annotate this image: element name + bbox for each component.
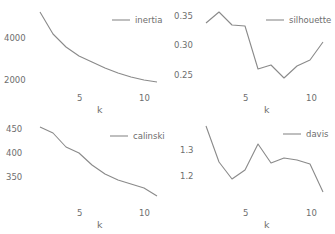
y-tick-label: 0.35 [174,11,193,21]
legend-label: silhouette [289,15,331,25]
x-axis-label: k [97,104,103,115]
panel-inertia: 4000 2000 5 10 k inertia [4,12,162,115]
y-tick-label: 1.3 [180,145,194,155]
y-tick-label: 1.2 [180,171,194,181]
y-tick-label: 400 [6,148,22,158]
x-axis-label: k [264,219,270,230]
y-tick-label: 0.25 [174,70,193,80]
x-tick-label: 10 [139,208,150,218]
panel-davis: 1.3 1.2 5 10 k davis [180,126,329,230]
panel-calinski: 450 400 350 5 10 k calinski [6,124,165,230]
panel-silhouette: 0.35 0.30 0.25 5 10 k silhouette [174,11,331,115]
y-tick-label: 0.30 [174,40,193,50]
x-axis-label: k [97,219,103,230]
y-tick-label: 450 [6,124,22,134]
chart-grid: 4000 2000 5 10 k inertia 0.35 0.30 0.25 … [0,0,335,234]
x-axis-label: k [264,104,270,115]
y-tick-label: 2000 [4,75,26,85]
x-tick-label: 5 [243,208,248,218]
x-tick-label: 10 [139,93,150,103]
y-tick-label: 350 [6,172,22,182]
x-tick-label: 10 [306,93,317,103]
x-tick-label: 5 [77,93,82,103]
x-tick-label: 5 [243,93,248,103]
x-tick-label: 5 [77,208,82,218]
legend-label: inertia [135,15,162,25]
y-tick-label: 4000 [4,33,26,43]
legend-label: davis [306,129,329,139]
charts-svg: 4000 2000 5 10 k inertia 0.35 0.30 0.25 … [0,0,335,234]
x-tick-label: 10 [306,208,317,218]
legend-label: calinski [133,131,165,141]
